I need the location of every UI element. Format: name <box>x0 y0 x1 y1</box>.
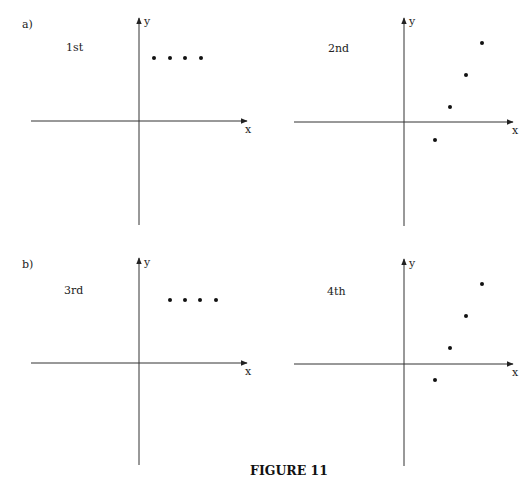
figure-caption: FIGURE 11 <box>250 463 328 478</box>
y-axis-label: y <box>408 257 416 270</box>
panel-title: 2nd <box>328 42 349 55</box>
panel-title: 3rd <box>64 284 83 297</box>
x-axis-label: x <box>245 365 252 378</box>
part-label-b: b) <box>22 258 33 271</box>
x-axis-label: x <box>512 124 519 137</box>
data-points <box>433 41 484 142</box>
panel-title: 1st <box>66 41 84 54</box>
data-points <box>168 298 218 302</box>
panel-4th: y x 4th <box>294 257 519 466</box>
panel-1st: y x 1st <box>31 15 252 225</box>
y-axis-label: y <box>408 15 416 28</box>
part-label-a: a) <box>22 18 33 31</box>
y-axis-label: y <box>143 256 151 269</box>
figure-canvas: a) b) y x 1st y x 2nd y x 3rd <box>0 0 530 482</box>
y-axis-label: y <box>143 15 151 28</box>
panel-2nd: y x 2nd <box>294 15 519 226</box>
panel-title: 4th <box>327 285 346 298</box>
panel-3rd: y x 3rd <box>31 256 252 465</box>
x-axis-label: x <box>245 123 252 136</box>
data-points <box>433 282 484 382</box>
x-axis-label: x <box>512 366 519 379</box>
data-points <box>152 56 203 60</box>
